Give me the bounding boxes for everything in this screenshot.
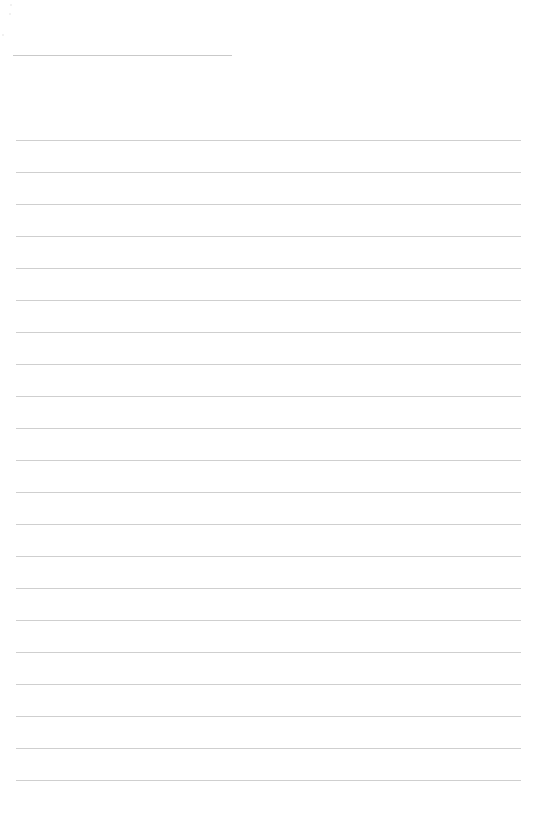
ruled-line [16, 364, 521, 365]
ruled-line [16, 428, 521, 429]
ruled-line [16, 396, 521, 397]
ruled-line [16, 716, 521, 717]
ruled-line [16, 588, 521, 589]
scan-noise [9, 13, 11, 15]
ruled-line [16, 300, 521, 301]
ruled-line [16, 684, 521, 685]
ruled-line [16, 748, 521, 749]
ruled-line [16, 652, 521, 653]
ruled-line [16, 556, 521, 557]
scan-noise [10, 4, 12, 6]
ruled-line [16, 332, 521, 333]
ruled-line [16, 780, 521, 781]
ruled-line [16, 204, 521, 205]
ruled-line [16, 524, 521, 525]
header-name-line [13, 55, 232, 56]
ruled-line [16, 140, 521, 141]
ruled-line [16, 172, 521, 173]
ruled-line [16, 492, 521, 493]
scan-noise [2, 34, 4, 36]
ruled-line [16, 460, 521, 461]
ruled-line [16, 620, 521, 621]
ruled-line [16, 268, 521, 269]
ruled-line [16, 236, 521, 237]
